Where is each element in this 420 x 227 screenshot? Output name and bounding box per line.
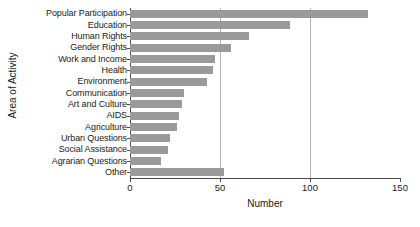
bar <box>130 157 161 165</box>
bar <box>130 112 179 120</box>
bar-row <box>130 53 400 64</box>
x-axis-line <box>130 178 400 179</box>
category-label: Environment <box>3 77 127 86</box>
x-tick-label: 0 <box>110 182 150 193</box>
category-label: Popular Participation <box>3 9 127 18</box>
bar <box>130 78 207 86</box>
bar <box>130 21 290 29</box>
x-axis-label: Number <box>130 198 400 209</box>
bar-row <box>130 19 400 30</box>
category-label: Human Rights <box>3 32 127 41</box>
bar-row <box>130 87 400 98</box>
category-label: Agriculture <box>3 123 127 132</box>
category-label-group: Popular ParticipationEducationHuman Righ… <box>0 8 127 178</box>
bar <box>130 55 215 63</box>
category-label: AIDS <box>3 111 127 120</box>
bar-row <box>130 76 400 87</box>
bar-chart-figure: Area of Activity Popular ParticipationEd… <box>0 0 420 227</box>
bar-row <box>130 65 400 76</box>
category-label: Agrarian Questions <box>3 157 127 166</box>
x-tick-label: 150 <box>380 182 420 193</box>
bar <box>130 100 182 108</box>
category-label: Other <box>3 168 127 177</box>
bar-row <box>130 121 400 132</box>
category-label: Social Assistance <box>3 145 127 154</box>
x-tick-label: 100 <box>290 182 330 193</box>
bar <box>130 134 170 142</box>
bar-row <box>130 99 400 110</box>
bar-row <box>130 155 400 166</box>
bar-row <box>130 133 400 144</box>
bar <box>130 123 177 131</box>
bar <box>130 32 249 40</box>
plot-area <box>130 8 400 178</box>
bar <box>130 89 184 97</box>
bar-row <box>130 42 400 53</box>
bar <box>130 44 231 52</box>
category-label: Urban Questions <box>3 134 127 143</box>
bar <box>130 146 168 154</box>
bar-row <box>130 8 400 19</box>
category-label: Art and Culture <box>3 100 127 109</box>
category-label: Gender Rights <box>3 43 127 52</box>
bar-row <box>130 31 400 42</box>
bar <box>130 10 368 18</box>
x-tick-label: 50 <box>200 182 240 193</box>
bar-row <box>130 144 400 155</box>
bar <box>130 168 224 176</box>
bar-row <box>130 167 400 178</box>
category-label: Education <box>3 21 127 30</box>
category-label: Work and Income <box>3 55 127 64</box>
bar <box>130 66 213 74</box>
bar-row <box>130 110 400 121</box>
category-label: Communication <box>3 89 127 98</box>
category-label: Health <box>3 66 127 75</box>
